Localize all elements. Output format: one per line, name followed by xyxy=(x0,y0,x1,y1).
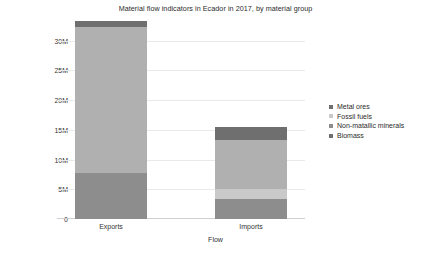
legend-item-label: Non-matallic minerals xyxy=(337,121,404,131)
bar-segment[interactable] xyxy=(215,127,287,140)
legend-item-label: Fossil fuels xyxy=(337,112,372,122)
x-axis-label: Flow xyxy=(0,236,431,243)
chart-title: Material flow indicators in Ecador in 20… xyxy=(0,4,431,13)
bar-segment[interactable] xyxy=(75,27,147,173)
legend-item[interactable]: Biomass xyxy=(329,131,429,141)
bar-segment[interactable] xyxy=(215,189,287,199)
bar-exports[interactable] xyxy=(75,21,147,219)
legend-swatch-icon xyxy=(329,124,333,128)
chart-legend: Metal oresFossil fuelsNon-matallic miner… xyxy=(329,102,429,140)
legend-swatch-icon xyxy=(329,134,333,138)
legend-swatch-icon xyxy=(329,114,333,118)
bar-segment[interactable] xyxy=(75,173,147,219)
x-axis-tick-label: Imports xyxy=(196,223,306,230)
legend-item-label: Biomass xyxy=(337,131,364,141)
bar-imports[interactable] xyxy=(215,127,287,219)
x-axis-tick-label: Exports xyxy=(56,223,166,230)
legend-item[interactable]: Metal ores xyxy=(329,102,429,112)
legend-swatch-icon xyxy=(329,105,333,109)
bar-chart: Material flow indicators in Ecador in 20… xyxy=(0,0,431,255)
bar-segment[interactable] xyxy=(215,199,287,219)
plot-area xyxy=(57,20,305,219)
legend-item-label: Metal ores xyxy=(337,102,370,112)
legend-item[interactable]: Non-matallic minerals xyxy=(329,121,429,131)
bar-segment[interactable] xyxy=(215,140,287,189)
legend-item[interactable]: Fossil fuels xyxy=(329,112,429,122)
